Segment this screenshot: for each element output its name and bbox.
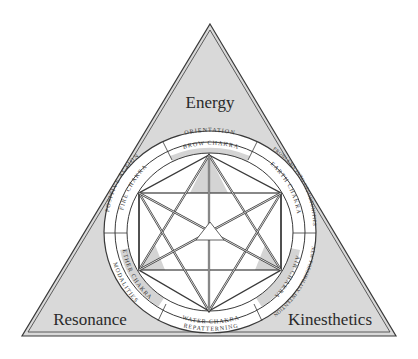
- corner-label-energy: Energy: [186, 93, 235, 112]
- corner-label-kinesthetics: Kinesthetics: [288, 310, 372, 329]
- corner-label-resonance: Resonance: [53, 310, 127, 329]
- triangle-diagram: Energy Resonance Kinesthetics ORIENTATIO…: [0, 0, 418, 359]
